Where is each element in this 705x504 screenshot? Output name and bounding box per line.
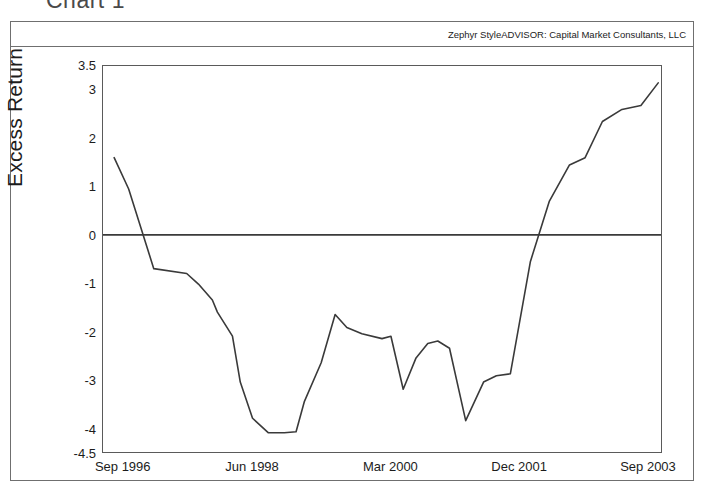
y-tick-label: 0	[89, 227, 96, 242]
x-axis-tick-labels: Sep 1996Jun 1998Mar 2000Dec 2001Sep 2003	[102, 459, 662, 479]
x-tick-label: Sep 2003	[620, 459, 676, 474]
chart-frame: Zephyr StyleADVISOR: Capital Market Cons…	[10, 21, 694, 481]
source-band: Zephyr StyleADVISOR: Capital Market Cons…	[11, 22, 693, 47]
y-tick-label: -3	[84, 373, 96, 388]
y-tick-label: 1	[89, 179, 96, 194]
y-axis-tick-labels: 3.53210-1-2-3-4-4.5	[51, 65, 96, 453]
x-tick-label: Mar 2000	[363, 459, 418, 474]
y-tick-label: -4.5	[74, 446, 96, 461]
y-tick-label: -2	[84, 324, 96, 339]
line-chart-svg	[103, 66, 661, 452]
source-attribution-text: Zephyr StyleADVISOR: Capital Market Cons…	[448, 29, 686, 40]
y-axis-label: Excess Return	[3, 48, 27, 187]
y-tick-label: 3	[89, 82, 96, 97]
x-tick-label: Jun 1998	[225, 459, 279, 474]
plot-area	[102, 65, 662, 453]
y-tick-label: -1	[84, 276, 96, 291]
x-tick-label: Dec 2001	[491, 459, 547, 474]
page-title: Chart 1	[46, 0, 125, 14]
excess-return-line	[114, 83, 658, 433]
y-tick-label: 2	[89, 130, 96, 145]
x-tick-label: Sep 1996	[95, 459, 151, 474]
y-tick-label: 3.5	[78, 58, 96, 73]
y-tick-label: -4	[84, 421, 96, 436]
